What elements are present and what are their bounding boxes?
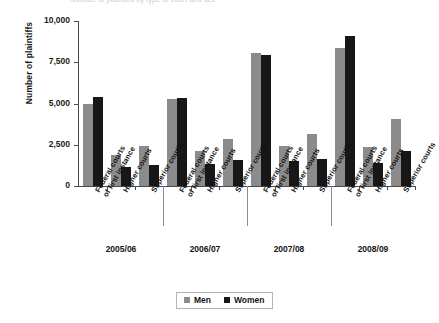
legend-swatch-women-icon (224, 297, 230, 303)
x-tick (135, 186, 136, 190)
bar-women-6 (261, 55, 271, 186)
legend-label-women: Women (234, 295, 265, 305)
y-tick-label: 7,500 (24, 56, 70, 66)
x-tick (415, 186, 416, 190)
x-tick (303, 186, 304, 190)
y-tick-label: 5,000 (24, 98, 70, 108)
y-tick-label: 0 (24, 180, 70, 190)
legend-item-men: Men (184, 295, 211, 305)
group-separator (163, 186, 164, 226)
x-group-label-2008-09: 2008/09 (331, 244, 415, 254)
y-tick: 0 (74, 186, 79, 187)
x-tick (219, 186, 220, 190)
group-separator (247, 186, 248, 226)
x-group-label-2006-07: 2006/07 (163, 244, 247, 254)
group-separator (331, 186, 332, 226)
y-tick: 2,500 (74, 145, 79, 146)
bar-women-9 (345, 36, 355, 186)
x-group-label-2005-06: 2005/06 (79, 244, 163, 254)
legend-item-women: Women (224, 295, 265, 305)
x-group-label-2007-08: 2007/08 (247, 244, 331, 254)
clipped-chart-title: Number of plaintiffs by type of court an… (70, 0, 370, 9)
y-tick: 10,000 (74, 21, 79, 22)
legend-swatch-men-icon (184, 297, 190, 303)
y-tick-label: 2,500 (24, 139, 70, 149)
y-tick-label: 10,000 (24, 15, 70, 25)
legend: Men Women (176, 292, 273, 309)
legend-label-men: Men (194, 295, 211, 305)
bar-men-0 (83, 104, 93, 187)
bar-chart: Number of plaintiffs by type of court an… (0, 0, 439, 323)
y-tick: 7,500 (74, 62, 79, 63)
y-tick: 5,000 (74, 104, 79, 105)
x-tick (387, 186, 388, 190)
